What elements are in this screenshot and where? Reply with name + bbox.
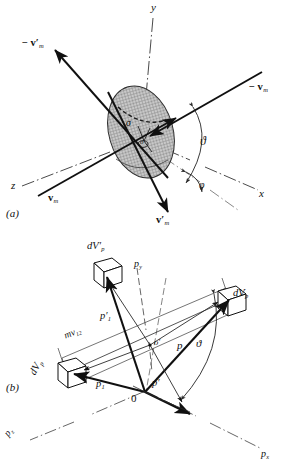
vector-label-p-1-prime-sub: 1 [108, 315, 111, 322]
panel-a-graphics [22, 18, 262, 212]
vector-label-minus-v-m: − vm [249, 82, 268, 93]
arrow-o-prime-down [150, 345, 182, 402]
vector-label-p: p [177, 340, 183, 351]
vector-label-v-m-sub: m [54, 197, 59, 204]
axis-label-z: z [11, 180, 15, 191]
axis-label-y: y [151, 2, 156, 13]
origin-label-o-a: o [140, 139, 144, 146]
vector-label-p-1-text: p [96, 378, 101, 389]
volume-element-label-dVp-prime: dV′p [87, 241, 105, 252]
vector-label-v-prime-m: v′m [156, 215, 169, 226]
panel-b-label: (b) [6, 382, 19, 393]
vector-label-p-1-prime: p′1 [100, 311, 111, 322]
volume-element-label-dVp-right-text: dV [233, 287, 245, 298]
midpoint-label-o-prime: o′ [154, 338, 160, 347]
cube-dVp-left [58, 358, 86, 388]
volume-element-label-dVp-prime-text: dV′ [87, 240, 101, 251]
arrow-minus-v-m [150, 72, 262, 136]
angle-label-theta: ϑ [200, 135, 206, 147]
vector-label-p-1: p1 [96, 379, 105, 390]
volume-element-label-dVp-prime-sub: p [101, 245, 104, 252]
physics-figure [0, 0, 282, 470]
vector-label-v-m-text: v [48, 192, 53, 203]
cross-section-label-sigma: σ [126, 118, 131, 128]
arrow-p-1-prime [107, 277, 145, 392]
volume-element-label-dVp-right: dVp [233, 288, 248, 299]
cube-dVp-prime [94, 258, 122, 288]
vector-label-minus-v-m-text: − v [249, 81, 263, 92]
axis-label-p-y: py [134, 259, 142, 270]
vector-label-p-1-sub: 1 [102, 383, 105, 390]
cross-section-ellipse [97, 78, 184, 186]
vector-label-minus-v-prime-m-sub: m [39, 42, 44, 49]
arrow-o-prime-to-dVp-left [84, 345, 150, 370]
origin-label-0: 0 [131, 393, 137, 404]
angle-label-theta-b: ϑ [196, 338, 201, 349]
vector-label-minus-v-m-sub: m [263, 86, 268, 93]
vector-label-p-1-prime-text: p′ [100, 310, 108, 321]
panel-a-label: (a) [6, 208, 19, 219]
axis-label-p-x-sub: x [266, 453, 269, 460]
vector-label-v-prime-m-text: v′ [156, 214, 164, 225]
axis-p-z-line [30, 392, 143, 440]
vector-label-v-prime-m-sub: m [165, 219, 170, 226]
axis-label-p-y-sub: y [139, 263, 142, 270]
axis-label-p-x: px [261, 449, 269, 460]
volume-element-label-dVp-right-sub: p [245, 292, 248, 299]
arrow-p-1 [74, 374, 145, 392]
vector-label-v-m: vm [48, 193, 58, 204]
vector-label-minus-v-prime-m-text: − v′ [22, 37, 39, 48]
axis-p-y-line [137, 268, 152, 372]
panel-b-graphics [30, 258, 262, 449]
vector-label-p-prime: p′ [152, 378, 160, 389]
midpoint-marker [148, 343, 151, 346]
vector-label-minus-v-prime-m: − v′m [22, 38, 44, 49]
axis-label-x: x [259, 188, 264, 199]
angle-label-phi: φ [199, 180, 205, 190]
axis-p-y-aux-line [146, 278, 166, 392]
